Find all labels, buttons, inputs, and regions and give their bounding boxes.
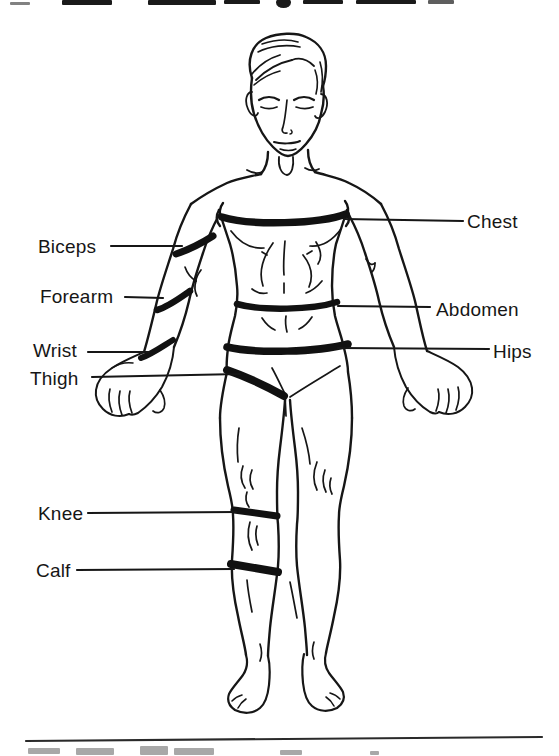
face <box>246 78 327 156</box>
label-hips: Hips <box>493 341 532 362</box>
abdomen-band <box>237 302 337 309</box>
hair <box>250 34 326 94</box>
left-eyebrow <box>259 97 279 100</box>
nose <box>282 100 287 133</box>
neck-shoulders <box>191 150 381 204</box>
legs <box>220 400 352 656</box>
leg-detail <box>237 428 332 661</box>
label-thigh: Thigh <box>30 368 79 389</box>
label-forearm: Forearm <box>40 286 113 307</box>
thigh-leader-line <box>92 374 240 377</box>
label-chest: Chest <box>467 211 518 232</box>
knee-leader-line <box>88 512 236 513</box>
label-biceps: Biceps <box>38 236 96 257</box>
chest-band <box>222 214 346 223</box>
mouth <box>274 141 300 143</box>
male-figure-drawing <box>96 34 472 713</box>
right-eye <box>296 107 313 109</box>
measurement-bands <box>141 201 348 572</box>
label-knee: Knee <box>38 503 83 524</box>
book-figure-page: Biceps Forearm Wrist Thigh Knee Calf Che… <box>0 0 559 756</box>
right-eyebrow <box>294 97 314 100</box>
knee-band <box>234 510 277 516</box>
anatomy-measurement-diagram <box>0 0 559 756</box>
right-arm <box>349 204 427 351</box>
left-eye <box>261 107 277 109</box>
chest-leader-line <box>344 219 463 221</box>
forearm-leader-line <box>125 297 163 298</box>
hips-band <box>227 344 348 351</box>
torso-detail <box>231 229 341 416</box>
calf-band <box>231 564 278 572</box>
label-wrist: Wrist <box>33 340 77 361</box>
calf-leader-line <box>77 569 234 570</box>
label-abdomen: Abdomen <box>436 299 519 320</box>
label-calf: Calf <box>36 560 71 581</box>
forearm-band <box>157 291 190 310</box>
sternal-notch <box>279 157 293 175</box>
abdomen-leader-line <box>338 306 430 307</box>
hips-leader-line <box>338 348 489 349</box>
feet <box>228 653 344 713</box>
bottom-rule <box>26 737 542 741</box>
right-hand <box>394 347 472 414</box>
left-arm <box>144 204 219 352</box>
left-hand <box>96 347 174 416</box>
